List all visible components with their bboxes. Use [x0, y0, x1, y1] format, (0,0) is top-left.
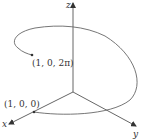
start-point-label: (1, 0, 0): [4, 99, 40, 109]
z-axis-label: z: [65, 0, 71, 10]
end-point-label: (1, 0, 2π): [32, 58, 74, 68]
end-point: [31, 54, 34, 57]
helix-diagram: z x y (1, 0, 2π) (1, 0, 0): [0, 0, 143, 139]
y-axis-label: y: [132, 129, 139, 139]
start-point: [33, 111, 36, 114]
y-axis: [73, 92, 136, 126]
x-axis-label: x: [2, 119, 7, 129]
